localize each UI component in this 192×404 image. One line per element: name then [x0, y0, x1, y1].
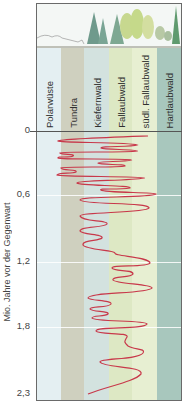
- vegetation-curve: [57, 136, 156, 394]
- chart-svg: [0, 0, 192, 404]
- landscape-icon: [37, 6, 181, 47]
